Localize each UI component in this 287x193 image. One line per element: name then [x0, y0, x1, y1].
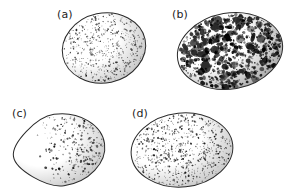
panel-label-a: (a)	[57, 9, 73, 21]
panel-label-d: (d)	[132, 108, 148, 120]
egg-figure: (a)(b)(c)(d)	[0, 0, 287, 193]
panel-label-b: (b)	[172, 9, 188, 21]
egg-illustration-canvas	[0, 0, 287, 193]
panel-label-c: (c)	[12, 108, 27, 120]
